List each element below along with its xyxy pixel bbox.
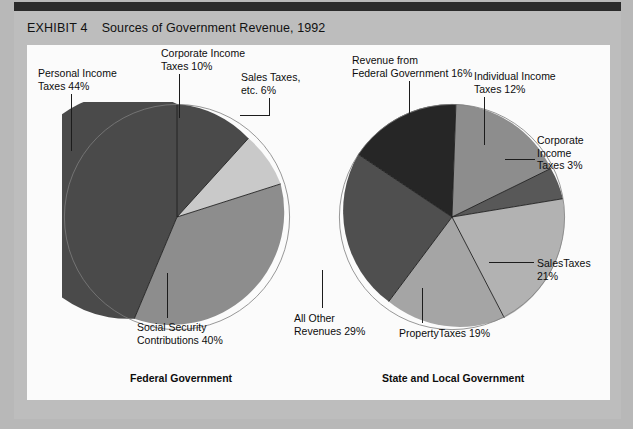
slice-label-line3: Taxes 3% bbox=[537, 159, 583, 171]
slice-label-line2: Revenues 29% bbox=[294, 325, 365, 337]
leader-line-sales-taxes-etc-vertical bbox=[269, 98, 270, 116]
leader-line-sales-taxes-etc-horizontal bbox=[240, 115, 270, 116]
slice-label-sales-taxes-state: SalesTaxes 21% bbox=[537, 257, 591, 282]
slice-label-personal-income-taxes: Personal Income Taxes 44% bbox=[38, 67, 117, 92]
pie-chart-federal-government bbox=[62, 102, 292, 332]
pie-chart-state-and-local-government bbox=[337, 102, 567, 332]
leader-line-individual-income-taxes bbox=[484, 97, 485, 145]
leader-line-corporate-income-taxes-federal bbox=[179, 74, 180, 118]
leader-line-property-taxes bbox=[422, 288, 423, 323]
slice-label-line2: etc. 6% bbox=[241, 84, 276, 96]
exhibit-header: EXHIBIT 4 Sources of Government Revenue,… bbox=[14, 13, 621, 43]
exhibit-number: EXHIBIT 4 bbox=[27, 21, 88, 35]
leader-line-social-security-contributions bbox=[167, 273, 168, 318]
slice-label-line2: Taxes 10% bbox=[161, 60, 212, 72]
slice-label-social-security-contributions: Social Security Contributions 40% bbox=[137, 321, 223, 346]
slice-label-line1: Social Security bbox=[137, 321, 206, 333]
slice-label-line1: All Other bbox=[294, 312, 335, 324]
slice-label-line2: Taxes 44% bbox=[38, 80, 89, 92]
leader-line-revenue-from-federal-government bbox=[409, 81, 410, 114]
slice-label-corporate-income-taxes-state: Corporate Income Taxes 3% bbox=[537, 134, 584, 172]
slice-label-line1: Personal Income bbox=[38, 67, 117, 79]
slice-label-line2: Income bbox=[537, 147, 571, 159]
leader-line-sales-taxes-state bbox=[489, 262, 534, 263]
top-decorative-band bbox=[14, 2, 621, 11]
slice-label-revenue-from-federal-government: Revenue from Federal Government 16% bbox=[352, 54, 472, 79]
slice-label-property-taxes: PropertyTaxes 19% bbox=[399, 327, 490, 340]
slice-label-all-other-revenues: All Other Revenues 29% bbox=[294, 312, 365, 337]
slice-label-line1: Corporate Income bbox=[161, 47, 245, 59]
slice-label-line1: SalesTaxes bbox=[537, 257, 591, 269]
exhibit-container: EXHIBIT 4 Sources of Government Revenue,… bbox=[0, 0, 633, 429]
slice-label-line2: Taxes 12% bbox=[474, 83, 525, 95]
slice-label-line2: Contributions 40% bbox=[137, 334, 223, 346]
slice-label-line1: Individual Income bbox=[474, 70, 556, 82]
chart-caption-federal-government: Federal Government bbox=[130, 372, 232, 384]
slice-label-sales-taxes-etc: Sales Taxes, etc. 6% bbox=[241, 71, 300, 96]
chart-caption-state-and-local-government: State and Local Government bbox=[382, 372, 524, 384]
slice-label-line1: Corporate bbox=[537, 134, 584, 146]
leader-line-all-other-revenues bbox=[322, 270, 323, 308]
leader-line-corporate-income-taxes-state bbox=[505, 159, 535, 160]
slice-label-line1: Revenue from bbox=[352, 54, 418, 66]
slice-label-corporate-income-taxes-federal: Corporate Income Taxes 10% bbox=[161, 47, 245, 72]
exhibit-title: Sources of Government Revenue, 1992 bbox=[102, 21, 326, 35]
slice-label-line2: 21% bbox=[537, 270, 558, 282]
leader-line-personal-income-taxes bbox=[71, 94, 72, 151]
slice-label-individual-income-taxes: Individual Income Taxes 12% bbox=[474, 70, 556, 95]
slice-label-line1: Sales Taxes, bbox=[241, 71, 300, 83]
charts-panel: Personal Income Taxes 44% Corporate Inco… bbox=[27, 45, 610, 400]
slice-label-line2: Federal Government 16% bbox=[352, 67, 472, 79]
